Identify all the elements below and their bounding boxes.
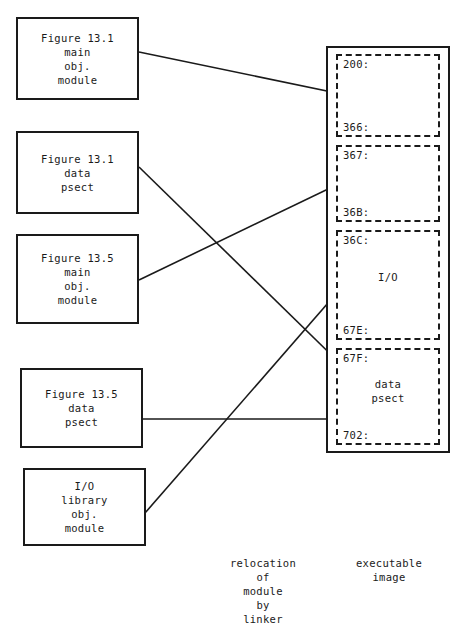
module-line: psect (65, 415, 98, 429)
address-label-end: 702: (342, 429, 371, 441)
module-box-fig131-data: Figure 13.1 data psect (16, 131, 139, 214)
module-box-fig131-main: Figure 13.1 main obj. module (16, 17, 139, 100)
address-label-end: 366: (342, 121, 371, 133)
caption-line: of (208, 570, 318, 584)
caption-executable-image: executable image (334, 556, 444, 584)
module-line: library (61, 493, 107, 507)
memory-block-36C-io: 36C: 67E: I/O (336, 230, 440, 340)
caption-line: module (208, 584, 318, 598)
caption-line: by (208, 598, 318, 612)
memory-block-200: 200: 366: (336, 54, 440, 137)
arrow-fig131-main-to-block200 (139, 52, 351, 96)
memory-block-67F-data-psect: 67F: 702: data psect (336, 348, 440, 445)
address-label-start: 367: (342, 149, 371, 161)
address-label-start: 200: (342, 58, 371, 70)
module-line: obj. (64, 59, 91, 73)
caption-line: relocation (208, 556, 318, 570)
module-line: data (68, 401, 95, 415)
arrow-io-library-to-block36C (145, 272, 355, 513)
linker-relocation-diagram: Figure 13.1 main obj. module Figure 13.1… (0, 0, 472, 632)
address-label-end: 36B: (342, 206, 371, 218)
caption-line: linker (208, 612, 318, 626)
module-line: module (58, 293, 98, 307)
module-line: I/O (75, 479, 95, 493)
address-label-end: 67E: (342, 324, 371, 336)
module-line: main (64, 265, 91, 279)
caption-relocation: relocation of module by linker (208, 556, 318, 626)
module-line: module (58, 73, 98, 87)
caption-line: executable (334, 556, 444, 570)
module-box-fig135-data: Figure 13.5 data psect (20, 368, 143, 448)
module-line: Figure 13.5 (45, 387, 118, 401)
address-label-start: 36C: (342, 234, 371, 246)
memory-block-label-io: I/O (338, 270, 438, 284)
address-label-start: 67F: (342, 352, 371, 364)
arrow-fig131-data-to-block67F (139, 167, 357, 380)
module-line: obj. (64, 279, 91, 293)
module-line: psect (61, 180, 94, 194)
module-line: obj. (71, 507, 98, 521)
module-line: Figure 13.5 (41, 251, 114, 265)
arrow-fig135-main-to-block367 (139, 178, 351, 280)
module-line: Figure 13.1 (41, 152, 114, 166)
module-line: module (65, 521, 105, 535)
module-line: Figure 13.1 (41, 31, 114, 45)
module-box-io-library: I/O library obj. module (23, 468, 146, 546)
memory-block-label-data-psect: data psect (338, 377, 438, 405)
caption-line: image (334, 570, 444, 584)
module-box-fig135-main: Figure 13.5 main obj. module (16, 234, 139, 324)
module-line: data (64, 166, 91, 180)
module-line: main (64, 45, 91, 59)
memory-block-367: 367: 36B: (336, 145, 440, 222)
